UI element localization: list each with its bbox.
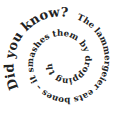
- spiral-text: Did you know? The lammergeier eats bones…: [0, 0, 113, 106]
- spiral-svg: Did you know? The lammergeier eats bones…: [0, 0, 130, 124]
- spiral-text-graphic: Did you know? The lammergeier eats bones…: [0, 0, 130, 124]
